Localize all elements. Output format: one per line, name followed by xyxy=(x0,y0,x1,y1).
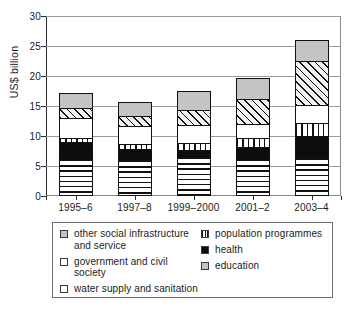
bar-segment xyxy=(237,100,269,125)
bar-segment xyxy=(119,161,151,195)
bar-segment xyxy=(178,126,210,144)
bar-segment xyxy=(60,143,92,160)
legend-swatch-icon xyxy=(60,230,68,238)
x-axis-tick xyxy=(76,196,77,200)
bar-segment xyxy=(60,109,92,119)
bar-segment xyxy=(119,117,151,127)
legend-item[interactable]: water supply and sanitation xyxy=(60,283,202,295)
x-axis-tick xyxy=(135,196,136,200)
legend-swatch-icon xyxy=(201,262,209,270)
bar-segment xyxy=(296,41,328,61)
plot-area xyxy=(46,16,341,196)
x-axis-tick-label: 2003–4 xyxy=(294,202,329,213)
bar-segment xyxy=(178,151,210,159)
x-axis-tick xyxy=(312,196,313,200)
legend-item-label: government and civil society xyxy=(74,256,202,279)
chart-figure: US$ billion 051015202530 1995–61997–8199… xyxy=(0,0,361,322)
x-axis-tick-label: 1999–2000 xyxy=(168,202,220,213)
bar-stack xyxy=(295,40,329,196)
bar-segment xyxy=(296,62,328,106)
bar-segment xyxy=(237,79,269,100)
x-axis-tick-label: 2001–2 xyxy=(235,202,270,213)
y-axis-tick-label: 5 xyxy=(1,161,41,172)
bar-group xyxy=(46,16,341,196)
bar-segment xyxy=(296,137,328,159)
bar-segment xyxy=(178,158,210,195)
bar-segment xyxy=(296,106,328,123)
bar-segment xyxy=(119,127,151,145)
bar-segment xyxy=(119,145,151,150)
legend-column-left: other social infrastructure and serviceg… xyxy=(60,228,202,299)
legend-item[interactable]: other social infrastructure and service xyxy=(60,228,202,251)
legend-item-label: education xyxy=(215,260,259,272)
bar-segment xyxy=(60,119,92,139)
y-axis-tick-label: 10 xyxy=(1,131,41,142)
bar-segment xyxy=(60,139,92,143)
bar-segment xyxy=(237,148,269,160)
y-axis-tick-label: 25 xyxy=(1,41,41,52)
legend-item-label: health xyxy=(215,244,243,256)
bar-segment xyxy=(178,144,210,151)
legend-swatch-icon xyxy=(60,258,68,266)
x-axis-tick-label: 1997–8 xyxy=(117,202,152,213)
bar-stack xyxy=(236,78,270,196)
bar-segment xyxy=(237,160,269,195)
legend-item[interactable]: education xyxy=(201,260,331,272)
bar-segment xyxy=(60,94,92,108)
bar-segment xyxy=(119,103,151,117)
x-axis-tick xyxy=(253,196,254,200)
y-axis-tick-label: 30 xyxy=(1,11,41,22)
x-axis-tick-label: 1995–6 xyxy=(58,202,93,213)
bar-segment xyxy=(178,111,210,126)
bar-segment xyxy=(237,139,269,147)
legend-column-right: population programmeshealtheducation xyxy=(201,228,331,276)
y-axis-tick-label: 0 xyxy=(1,191,41,202)
bar-segment xyxy=(119,150,151,161)
legend-item-label: population programmes xyxy=(215,228,322,240)
bar-segment xyxy=(237,125,269,139)
legend-swatch-icon xyxy=(201,246,209,254)
bar-stack xyxy=(118,102,152,196)
bar-segment xyxy=(296,124,328,138)
bar-segment xyxy=(178,92,210,111)
x-axis-boundary-tick xyxy=(341,196,342,200)
y-axis-tick-labels: 051015202530 xyxy=(0,16,41,196)
chart-legend: other social infrastructure and serviceg… xyxy=(52,222,333,298)
bar-segment xyxy=(60,160,92,195)
bar-stack xyxy=(177,91,211,196)
legend-item-label: water supply and sanitation xyxy=(74,283,198,295)
legend-swatch-icon xyxy=(60,285,68,293)
y-axis-tick-label: 15 xyxy=(1,101,41,112)
y-axis-tick-label: 20 xyxy=(1,71,41,82)
x-axis: 1995–61997–81999–20002001–22003–4 xyxy=(46,196,341,218)
legend-swatch-icon xyxy=(201,230,209,238)
bar-segment xyxy=(296,159,328,195)
legend-item[interactable]: health xyxy=(201,244,331,256)
bar-stack xyxy=(59,93,93,196)
legend-item[interactable]: population programmes xyxy=(201,228,331,240)
x-axis-tick xyxy=(194,196,195,200)
x-axis-boundary-tick xyxy=(46,196,47,200)
legend-item[interactable]: government and civil society xyxy=(60,256,202,279)
legend-item-label: other social infrastructure and service xyxy=(74,228,202,251)
